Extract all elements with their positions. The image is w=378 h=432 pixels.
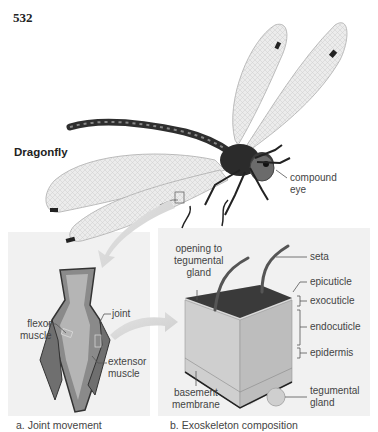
abdomen	[70, 122, 230, 152]
caption-joint-movement: a. Joint movement	[16, 419, 102, 431]
label-endocuticle: endocuticle	[310, 321, 361, 333]
caption-exoskeleton-composition: b. Exoskeleton composition	[170, 419, 298, 431]
label-flexor-muscle: flexor muscle	[20, 318, 52, 342]
label-extensor-muscle: extensor muscle	[108, 356, 146, 380]
figure-title: Dragonfly	[14, 146, 68, 158]
label-tegumental-gland: tegumental gland	[310, 385, 359, 409]
lower-wings	[46, 154, 228, 243]
dragonfly-illustration	[0, 0, 378, 432]
label-joint: joint	[112, 308, 130, 320]
label-basement-membrane: basement membrane	[172, 387, 220, 411]
label-opening-to-tegumental-gland: opening to tegumental gland	[174, 243, 223, 279]
compound-eye	[250, 155, 274, 181]
upper-wings	[233, 23, 347, 150]
label-epidermis: epidermis	[310, 347, 353, 359]
label-epicuticle: epicuticle	[310, 276, 352, 288]
label-seta: seta	[310, 251, 329, 263]
label-compound-eye: compound eye	[290, 172, 337, 196]
label-exocuticle: exocuticle	[310, 295, 354, 307]
